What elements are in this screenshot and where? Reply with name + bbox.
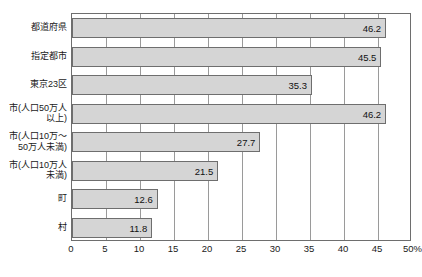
bar: 12.6 — [72, 189, 158, 209]
x-axis-tick-labels: 05101520253035404550% — [71, 243, 411, 257]
bar-row: 46.2 — [72, 14, 410, 43]
category-label: 市(人口10万〜 50万人未満) — [0, 131, 67, 152]
bar: 46.2 — [72, 18, 386, 38]
bar-row: 12.6 — [72, 185, 410, 214]
bar-value-label: 35.3 — [289, 80, 308, 91]
bar: 11.8 — [72, 218, 152, 238]
x-tick-label: 35 — [304, 243, 315, 254]
bar: 45.5 — [72, 47, 381, 67]
x-tick-label: 30 — [270, 243, 281, 254]
category-label: 東京23区 — [0, 79, 67, 90]
bar-row: 46.2 — [72, 100, 410, 129]
bar: 27.7 — [72, 132, 260, 152]
bar-value-label: 46.2 — [363, 23, 382, 34]
x-tick-label: 50% — [403, 243, 422, 254]
bar-value-label: 11.8 — [129, 222, 147, 233]
bar-row: 21.5 — [72, 157, 410, 186]
x-tick-label: 0 — [68, 243, 73, 254]
x-tick-label: 5 — [102, 243, 107, 254]
bar-value-label: 27.7 — [237, 137, 256, 148]
bar-value-label: 12.6 — [134, 194, 153, 205]
bar-row: 45.5 — [72, 43, 410, 72]
x-tick-label: 40 — [338, 243, 349, 254]
category-label: 指定都市 — [0, 51, 67, 62]
category-label: 都道府県 — [0, 22, 67, 33]
bar: 21.5 — [72, 161, 218, 181]
bar-value-label: 45.5 — [358, 51, 377, 62]
x-tick-label: 15 — [168, 243, 179, 254]
bar-row: 35.3 — [72, 71, 410, 100]
category-label: 村 — [0, 222, 67, 233]
x-tick-label: 25 — [236, 243, 247, 254]
x-tick-label: 10 — [134, 243, 145, 254]
x-tick-label: 20 — [202, 243, 213, 254]
plot-area: 46.245.535.346.227.721.512.611.8 — [71, 13, 411, 241]
bar-row: 11.8 — [72, 214, 410, 243]
bar-row: 27.7 — [72, 128, 410, 157]
category-label: 町 — [0, 193, 67, 204]
bar: 46.2 — [72, 104, 386, 124]
bar-value-label: 46.2 — [363, 108, 382, 119]
bar-value-label: 21.5 — [195, 165, 214, 176]
category-label: 市(人口10万人 未満) — [0, 159, 67, 180]
bar: 35.3 — [72, 75, 312, 95]
category-label: 市(人口50万人 以上) — [0, 102, 67, 123]
horizontal-bar-chart: 46.245.535.346.227.721.512.611.8 都道府県指定都… — [0, 0, 422, 277]
x-tick-label: 45 — [372, 243, 383, 254]
